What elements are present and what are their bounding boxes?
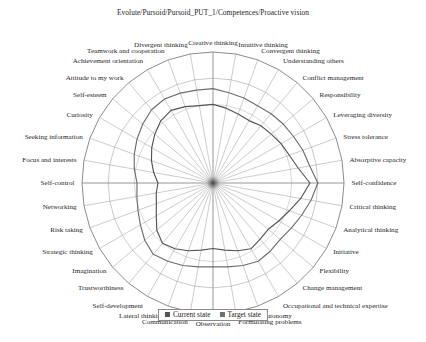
axis-label: Flexibility <box>319 267 349 275</box>
chart-legend: Current state Target state <box>158 309 268 321</box>
axis-label: Responsibility <box>319 91 360 99</box>
legend-swatch-target-state <box>219 312 224 317</box>
axis-label: Trustworthiness <box>78 284 124 292</box>
axis-label: Achievement orientation <box>73 57 144 65</box>
radar-center-hub <box>204 174 222 192</box>
axis-label: Stress tolerance <box>343 133 388 141</box>
radar-series-current-state <box>151 104 309 250</box>
axis-label: Self-development <box>93 302 143 310</box>
legend-item-current-state: Current state <box>165 311 211 318</box>
axis-label: Analytical thinking <box>343 226 398 234</box>
axis-label: Critical thinking <box>349 203 396 211</box>
axis-label: Change management <box>303 284 363 292</box>
legend-item-target-state: Target state <box>219 311 261 318</box>
axis-label: Imagination <box>72 267 107 275</box>
axis-label: Initiative <box>333 248 359 256</box>
legend-label-current-state: Current state <box>173 311 211 318</box>
axis-label: Focus and interests <box>22 156 77 164</box>
axis-label: Strategic thinking <box>42 248 93 256</box>
axis-label: Seeking information <box>25 133 84 141</box>
axis-label: Attitude to my work <box>66 74 124 82</box>
legend-swatch-current-state <box>165 312 170 317</box>
radar-chart: Creative thinkingIntuitive thinkingConve… <box>0 0 426 342</box>
axis-label: Convergent thinking <box>261 47 320 55</box>
axis-label: Absorptive capacity <box>349 156 406 164</box>
axis-label: Occupational and technical expertise <box>283 302 388 310</box>
axis-label: Curiosity <box>66 111 93 119</box>
axis-label: Self-confidence <box>352 179 397 187</box>
radar-chart-svg: Creative thinkingIntuitive thinkingConve… <box>0 0 426 342</box>
axis-label: Self-control <box>41 179 75 187</box>
axis-label: Risk taking <box>50 226 83 234</box>
axis-label: Networking <box>43 203 77 211</box>
axis-label: Understanding others <box>283 57 344 65</box>
axis-label: Conflict management <box>303 74 364 82</box>
axis-label: Creative thinking <box>188 39 238 47</box>
axis-label: Leveraging diversity <box>333 111 392 119</box>
axis-label: Observation <box>196 320 231 328</box>
axis-label: Self-esteem <box>73 91 107 99</box>
legend-label-target-state: Target state <box>227 311 261 318</box>
axis-label: Divergent thinking <box>134 41 188 49</box>
